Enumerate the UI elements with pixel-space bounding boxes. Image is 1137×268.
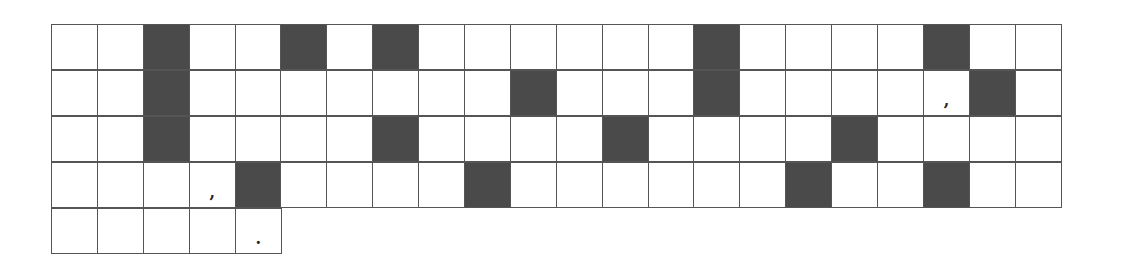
grid-cell-dark [831,116,878,162]
grid-cell-dark [969,70,1016,116]
grid-cell [143,208,190,254]
grid-cell [831,162,878,208]
grid-cell [97,116,144,162]
grid-cell-dark [372,24,419,70]
grid-row: , [51,162,1061,208]
grid-cell [785,24,832,70]
grid-cell [556,162,603,208]
grid-cell-dark [280,24,327,70]
grid-cell [1015,24,1062,70]
grid-cell [418,70,465,116]
grid-cell [831,24,878,70]
grid-cell: , [189,162,236,208]
grid-cell [648,24,695,70]
grid-cell-dark [785,162,832,208]
grid-cell [326,162,373,208]
grid-cell [418,162,465,208]
grid-cell [831,70,878,116]
grid-cell-dark [510,70,557,116]
grid-cell [1015,116,1062,162]
grid-cell [326,116,373,162]
grid-cell [97,208,144,254]
grid-cell [97,162,144,208]
grid-cell-dark [143,70,190,116]
grid-cell [602,24,649,70]
grid-cell [418,24,465,70]
grid-cell [556,70,603,116]
grid-cell [51,116,98,162]
grid-cell [51,162,98,208]
grid-cell [648,116,695,162]
grid-cell [97,70,144,116]
grid-cell-dark [923,24,970,70]
grid-cell [556,24,603,70]
grid-cell: . [235,208,282,254]
grid-cell [97,24,144,70]
grid-cell-dark [143,24,190,70]
grid-cell [280,116,327,162]
grid-cell [510,24,557,70]
grid-cell [280,162,327,208]
grid-cell [464,24,511,70]
punctuation-mark: . [255,231,261,247]
grid-cell [1015,162,1062,208]
grid-cell-dark [693,70,740,116]
grid-cell [464,116,511,162]
grid-cell-dark [602,116,649,162]
grid-cell [877,24,924,70]
grid-cell [648,162,695,208]
grid-cell [51,24,98,70]
grid-cell [648,70,695,116]
grid-cell [189,24,236,70]
grid-row [51,24,1061,70]
grid-cell [785,116,832,162]
grid-cell [877,116,924,162]
grid-cell [739,70,786,116]
grid-cell [326,70,373,116]
grid-cell [189,208,236,254]
grid-cell [51,70,98,116]
grid-cell-dark [464,162,511,208]
manuscript-grid: ,,. [51,24,1061,254]
grid-cell [739,24,786,70]
grid-cell [464,70,511,116]
grid-cell [326,24,373,70]
grid-cell [602,70,649,116]
grid-cell [739,162,786,208]
grid-cell [418,116,465,162]
grid-cell [877,162,924,208]
grid-cell [739,116,786,162]
grid-cell [693,116,740,162]
grid-cell [877,70,924,116]
grid-cell [189,116,236,162]
grid-row: , [51,70,1061,116]
grid-cell [235,116,282,162]
grid-cell [969,116,1016,162]
grid-cell [189,70,236,116]
grid-cell [602,162,649,208]
grid-cell [785,70,832,116]
grid-cell [923,116,970,162]
grid-cell [510,162,557,208]
grid-cell-dark [143,116,190,162]
grid-cell [372,162,419,208]
grid-cell-dark [235,162,282,208]
grid-cell: , [923,70,970,116]
grid-cell-dark [693,24,740,70]
grid-cell [556,116,603,162]
grid-cell [143,162,190,208]
grid-cell-dark [372,116,419,162]
grid-cell [51,208,98,254]
grid-cell [235,24,282,70]
grid-cell [969,24,1016,70]
grid-cell [693,162,740,208]
grid-cell [510,116,557,162]
grid-row [51,116,1061,162]
grid-row: . [51,208,1061,254]
punctuation-mark: , [210,185,216,201]
grid-cell [372,70,419,116]
punctuation-mark: , [944,93,950,109]
grid-cell-dark [923,162,970,208]
grid-cell [280,70,327,116]
grid-cell [969,162,1016,208]
